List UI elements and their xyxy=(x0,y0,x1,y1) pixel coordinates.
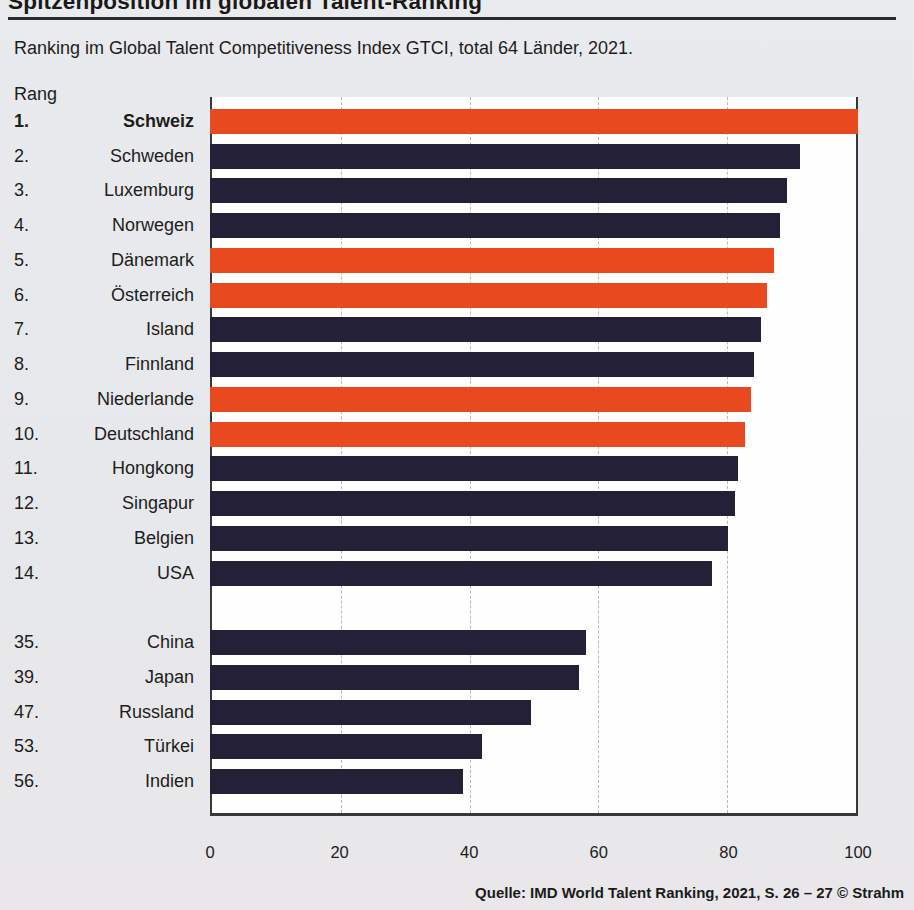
chart-row: 47.Russland xyxy=(14,695,858,730)
country-label: Deutschland xyxy=(56,424,210,445)
x-axis: 020406080100 xyxy=(210,843,858,865)
bar-indien xyxy=(210,769,463,794)
chart-row: 10.Deutschland xyxy=(14,417,858,452)
bar-d-nemark xyxy=(210,248,774,273)
title-divider-rule xyxy=(8,17,896,20)
book-page-scan: Spitzenposition im globalen Talent-Ranki… xyxy=(0,0,914,910)
chart-subtitle: Ranking im Global Talent Competitiveness… xyxy=(14,38,633,59)
rank-label: 11. xyxy=(14,458,56,479)
chart-row: 2.Schweden xyxy=(14,139,858,174)
bar-hongkong xyxy=(210,456,738,481)
bar-track xyxy=(210,665,858,690)
bar-track xyxy=(210,630,858,655)
country-label: Finnland xyxy=(56,354,210,375)
country-label: Japan xyxy=(56,667,210,688)
x-tick-label-100: 100 xyxy=(844,843,872,862)
country-label: Indien xyxy=(56,771,210,792)
bar-track xyxy=(210,248,858,273)
country-label: Belgien xyxy=(56,528,210,549)
country-label: Singapur xyxy=(56,493,210,514)
bar-track xyxy=(210,526,858,551)
rang-axis-label: Rang xyxy=(14,84,57,105)
chart-row: 11.Hongkong xyxy=(14,452,858,487)
chart-row: 8.Finnland xyxy=(14,347,858,382)
country-label: Österreich xyxy=(56,285,210,306)
source-credit: Quelle: IMD World Talent Ranking, 2021, … xyxy=(475,884,904,901)
country-label: Türkei xyxy=(56,736,210,757)
country-label: Island xyxy=(56,319,210,340)
bar-track xyxy=(210,734,858,759)
chart-row: 4.Norwegen xyxy=(14,208,858,243)
rank-label: 5. xyxy=(14,250,56,271)
bar-track xyxy=(210,491,858,516)
bar-china xyxy=(210,630,586,655)
bar-deutschland xyxy=(210,422,745,447)
rank-label: 13. xyxy=(14,528,56,549)
x-tick-label-60: 60 xyxy=(590,843,608,862)
chart-row: 14.USA xyxy=(14,556,858,591)
rank-label: 35. xyxy=(14,632,56,653)
bar-track xyxy=(210,178,858,203)
chart-row: 13.Belgien xyxy=(14,521,858,556)
bar-niederlande xyxy=(210,387,751,412)
country-label: Norwegen xyxy=(56,215,210,236)
rank-label: 56. xyxy=(14,771,56,792)
rank-label: 53. xyxy=(14,736,56,757)
bar-t-rkei xyxy=(210,734,482,759)
chart-row: 7.Island xyxy=(14,313,858,348)
bar-usa xyxy=(210,561,712,586)
rank-label: 1. xyxy=(14,111,56,132)
rank-label: 9. xyxy=(14,389,56,410)
chart-row: 35.China xyxy=(14,625,858,660)
rank-label: 7. xyxy=(14,319,56,340)
rank-label: 12. xyxy=(14,493,56,514)
rank-label: 39. xyxy=(14,667,56,688)
chart-row: 53.Türkei xyxy=(14,730,858,765)
bar-track xyxy=(210,213,858,238)
bar-belgien xyxy=(210,526,728,551)
country-label: Luxemburg xyxy=(56,180,210,201)
bar-track xyxy=(210,456,858,481)
bar-track xyxy=(210,561,858,586)
bar-track xyxy=(210,317,858,342)
chart-row: 1.Schweiz xyxy=(14,104,858,139)
country-label: Niederlande xyxy=(56,389,210,410)
spacer-row xyxy=(14,591,858,626)
rank-label: 8. xyxy=(14,354,56,375)
rank-label: 6. xyxy=(14,285,56,306)
x-tick-label-0: 0 xyxy=(205,843,214,862)
rank-label: 3. xyxy=(14,180,56,201)
country-label: Hongkong xyxy=(56,458,210,479)
bar-track xyxy=(210,283,858,308)
bar-finnland xyxy=(210,352,754,377)
country-label: Russland xyxy=(56,702,210,723)
bar-schweden xyxy=(210,144,800,169)
bar-singapur xyxy=(210,491,735,516)
chart-row: 6.Österreich xyxy=(14,278,858,313)
country-label: Schweiz xyxy=(56,111,210,132)
chart-row: 3.Luxemburg xyxy=(14,174,858,209)
bar-luxemburg xyxy=(210,178,787,203)
rank-label: 10. xyxy=(14,424,56,445)
country-label: USA xyxy=(56,563,210,584)
country-label: Schweden xyxy=(56,146,210,167)
bar-island xyxy=(210,317,761,342)
bar-track xyxy=(210,352,858,377)
rank-label: 2. xyxy=(14,146,56,167)
bar-track xyxy=(210,109,858,134)
bar-norwegen xyxy=(210,213,780,238)
bar-track xyxy=(210,144,858,169)
bar-track xyxy=(210,387,858,412)
rank-label: 47. xyxy=(14,702,56,723)
bar-track xyxy=(210,769,858,794)
bar-track xyxy=(210,422,858,447)
chart-row: 56.Indien xyxy=(14,764,858,799)
chart-row: 39.Japan xyxy=(14,660,858,695)
bar-schweiz xyxy=(210,109,858,134)
x-tick-label-40: 40 xyxy=(460,843,478,862)
x-tick-label-20: 20 xyxy=(330,843,348,862)
country-label: China xyxy=(56,632,210,653)
chart-row: 9.Niederlande xyxy=(14,382,858,417)
clipped-title-container: Spitzenposition im globalen Talent-Ranki… xyxy=(8,0,808,14)
bar-russland xyxy=(210,700,531,725)
